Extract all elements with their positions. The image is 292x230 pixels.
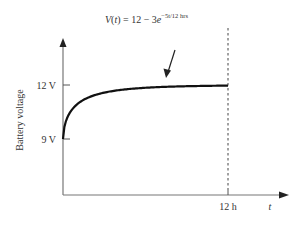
battery-voltage-chart: V(t) = 12 − 3e−5t/12 hrs 12 V 9 V Batter… [0, 0, 292, 230]
y-tick-label-9v: 9 V [41, 134, 56, 145]
x-axis-label: t [269, 201, 272, 212]
x-axis-arrow-icon [279, 192, 289, 199]
annotation-arrow-line [168, 50, 175, 72]
y-tick-label-12v: 12 V [36, 80, 56, 91]
y-axis-arrow-icon [60, 38, 67, 47]
chart-canvas: V(t) = 12 − 3e−5t/12 hrs 12 V 9 V Batter… [0, 0, 292, 230]
chart-title: V(t) = 12 − 3e−5t/12 hrs [105, 12, 188, 26]
annotation-arrow-icon [164, 69, 172, 79]
x-tick-label-12h: 12 h [219, 201, 237, 212]
y-axis-label: Battery voltage [14, 89, 25, 151]
voltage-curve [63, 86, 228, 139]
